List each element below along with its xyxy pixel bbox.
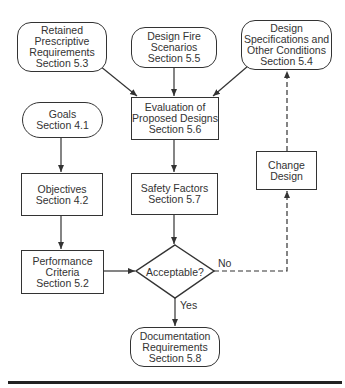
- node-objectives: Objectives Section 4.2: [21, 173, 103, 216]
- node-text: Section 5.5: [148, 53, 201, 64]
- node-text: Design: [270, 171, 303, 182]
- edge-label-no: No: [218, 257, 231, 269]
- node-evaluation-of-proposed-designs: Evaluation of Proposed Designs Section 5…: [131, 97, 219, 140]
- node-performance-criteria: Performance Criteria Section 5.2: [21, 250, 104, 294]
- node-text: Change: [268, 160, 305, 171]
- node-design-specifications: Design Specifications and Other Conditio…: [241, 20, 332, 70]
- node-text: Section 5.8: [149, 353, 202, 364]
- node-design-fire-scenarios: Design Fire Scenarios Section 5.5: [131, 27, 217, 68]
- node-retained-prescriptive-requirements: Retained Prescriptive Requirements Secti…: [17, 22, 107, 72]
- arrow-retained-to-evaluation: [100, 66, 137, 96]
- node-safety-factors: Safety Factors Section 5.7: [131, 173, 218, 215]
- node-text: Documentation: [140, 331, 211, 342]
- node-change-design: Change Design: [256, 151, 317, 190]
- node-text: Objectives: [37, 184, 86, 195]
- node-text: Criteria: [46, 267, 80, 278]
- node-goals: Goals Section 4.1: [22, 102, 103, 138]
- bottom-rule-divider: [8, 381, 342, 384]
- arrow-specs-to-evaluation: [213, 66, 248, 96]
- node-text: Section 5.3: [36, 58, 89, 69]
- node-documentation-requirements: Documentation Requirements Section 5.8: [130, 327, 220, 367]
- node-text: Section 4.2: [36, 195, 89, 206]
- node-text: Section 5.7: [148, 194, 201, 205]
- node-text: Performance: [32, 256, 92, 267]
- decision-label: Acceptable?: [136, 245, 214, 298]
- node-text: Section 5.2: [36, 278, 89, 289]
- edge-label-yes: Yes: [180, 299, 197, 311]
- node-text: Section 4.1: [36, 120, 89, 131]
- node-text: Section 5.6: [149, 124, 202, 135]
- node-text: Section 5.4: [260, 56, 313, 67]
- node-text: Requirements: [142, 342, 207, 353]
